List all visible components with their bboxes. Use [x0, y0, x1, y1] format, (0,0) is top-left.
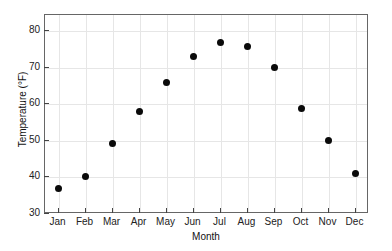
data-point: [82, 173, 89, 180]
gridline-horizontal: [45, 177, 367, 178]
data-point: [271, 64, 278, 71]
x-tick-mark: [328, 208, 329, 213]
gridline-vertical: [167, 15, 168, 212]
x-tick-label: Dec: [335, 216, 375, 227]
gridline-vertical: [329, 15, 330, 212]
y-tick-mark: [44, 140, 49, 141]
x-tick-mark: [355, 208, 356, 213]
plot-area: [44, 14, 368, 213]
data-point: [109, 140, 116, 147]
y-axis-title: Temperature (°F): [17, 40, 28, 180]
x-tick-mark: [139, 208, 140, 213]
gridline-horizontal: [45, 31, 367, 32]
data-point: [217, 39, 224, 46]
y-tick-mark: [44, 30, 49, 31]
x-axis-title: Month: [44, 231, 368, 242]
data-point: [325, 137, 332, 144]
data-point: [55, 185, 62, 192]
y-tick-mark: [44, 103, 49, 104]
gridline-vertical: [59, 15, 60, 212]
gridline-vertical: [356, 15, 357, 212]
data-point: [244, 43, 251, 50]
x-tick-mark: [166, 208, 167, 213]
y-tick-mark: [44, 213, 49, 214]
data-point: [136, 108, 143, 115]
gridline-horizontal: [45, 141, 367, 142]
y-tick-label: 30: [0, 208, 40, 218]
x-tick-mark: [220, 208, 221, 213]
figure-canvas: 304050607080 JanFebMarAprMayJunJulAugSep…: [0, 0, 392, 251]
x-tick-mark: [85, 208, 86, 213]
x-tick-mark: [112, 208, 113, 213]
data-point: [298, 105, 305, 112]
data-point: [163, 79, 170, 86]
y-tick-mark: [44, 176, 49, 177]
gridline-vertical: [302, 15, 303, 212]
gridline-horizontal: [45, 104, 367, 105]
x-tick-mark: [193, 208, 194, 213]
gridline-vertical: [86, 15, 87, 212]
data-point: [352, 170, 359, 177]
y-tick-label: 80: [0, 25, 40, 35]
x-tick-mark: [247, 208, 248, 213]
gridline-vertical: [275, 15, 276, 212]
gridline-vertical: [113, 15, 114, 212]
y-tick-mark: [44, 67, 49, 68]
gridline-vertical: [194, 15, 195, 212]
x-tick-mark: [301, 208, 302, 213]
x-tick-mark: [58, 208, 59, 213]
x-tick-mark: [274, 208, 275, 213]
data-point: [190, 53, 197, 60]
gridline-horizontal: [45, 68, 367, 69]
